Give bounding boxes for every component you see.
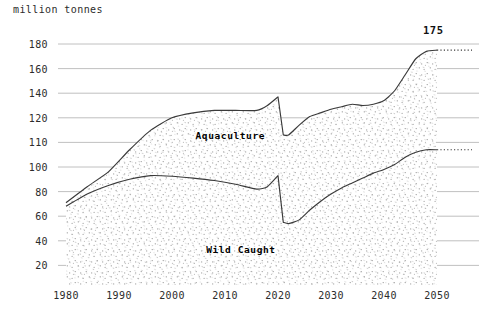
series-label-aquaculture: Aquaculture [196, 130, 266, 141]
y-tick-160: 160 [14, 63, 48, 74]
x-tick-2020: 2020 [255, 290, 301, 301]
series-label-wild-caught: Wild Caught [206, 244, 276, 255]
x-tick-2030: 2030 [308, 290, 354, 301]
x-tick-2040: 2040 [361, 290, 407, 301]
x-tick-2000: 2000 [149, 290, 195, 301]
y-tick-40: 40 [14, 235, 48, 246]
fisheries-production-chart: million tonnes 175 20406080100110120 [0, 0, 483, 319]
y-tick-110: 110 [14, 137, 48, 148]
y-tick-180: 180 [14, 39, 48, 50]
y-tick-80: 80 [14, 186, 48, 197]
y-tick-100: 100 [14, 162, 48, 173]
x-tick-2010: 2010 [202, 290, 248, 301]
x-tick-1980: 1980 [43, 290, 89, 301]
y-tick-120: 120 [14, 112, 48, 123]
y-tick-20: 20 [14, 260, 48, 271]
x-tick-2050: 2050 [414, 290, 460, 301]
y-tick-140: 140 [14, 88, 48, 99]
plot-canvas [0, 0, 483, 319]
x-tick-1990: 1990 [96, 290, 142, 301]
y-tick-60: 60 [14, 211, 48, 222]
